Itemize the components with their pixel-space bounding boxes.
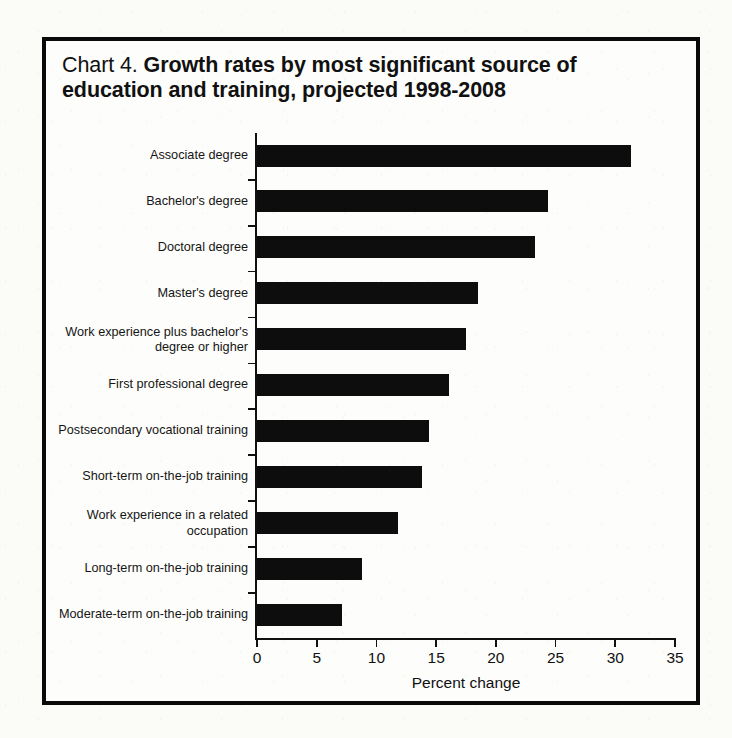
bar bbox=[257, 512, 398, 534]
x-axis-tick-label: 0 bbox=[253, 649, 262, 667]
x-axis-tick bbox=[435, 638, 437, 647]
y-axis-category-label: Postsecondary vocational training bbox=[18, 424, 248, 440]
y-axis-tick bbox=[248, 225, 257, 227]
y-axis-category-label: First professional degree bbox=[18, 378, 248, 394]
x-axis-tick-label: 20 bbox=[487, 649, 504, 667]
y-axis-category-label: Short-term on-the-job training bbox=[18, 469, 248, 485]
bar-row: Short-term on-the-job training bbox=[257, 454, 675, 500]
plot-area: Associate degreeBachelor's degreeDoctora… bbox=[257, 133, 675, 638]
y-axis-category-label: Doctoral degree bbox=[18, 240, 248, 256]
chart-number-label: Chart 4. bbox=[62, 53, 138, 77]
x-axis-tick-label: 25 bbox=[547, 649, 564, 667]
bar-row: Bachelor's degree bbox=[257, 179, 675, 225]
bar-row: Work experience in a related occupation bbox=[257, 500, 675, 546]
bar-row: Long-term on-the-job training bbox=[257, 546, 675, 592]
y-axis-tick bbox=[248, 408, 257, 410]
bar bbox=[257, 466, 422, 488]
bar bbox=[257, 374, 449, 396]
y-axis-tick bbox=[248, 271, 257, 273]
x-axis-tick bbox=[495, 638, 497, 647]
y-axis-tick bbox=[248, 317, 257, 319]
y-axis-category-label: Master's degree bbox=[18, 286, 248, 302]
x-axis-tick bbox=[316, 638, 318, 647]
x-axis-title: Percent change bbox=[257, 674, 675, 692]
y-axis-category-label: Moderate-term on-the-job training bbox=[18, 607, 248, 623]
y-axis-category-label: Bachelor's degree bbox=[18, 194, 248, 210]
bar bbox=[257, 558, 362, 580]
x-axis-tick bbox=[555, 638, 557, 647]
bar-row: First professional degree bbox=[257, 363, 675, 409]
bar-row: Associate degree bbox=[257, 133, 675, 179]
x-axis-tick-label: 10 bbox=[368, 649, 385, 667]
x-axis-tick bbox=[376, 638, 378, 647]
page-title: Chart 4. Growth rates by most significan… bbox=[62, 53, 682, 103]
chart-title-text: Growth rates by most significant source … bbox=[62, 53, 577, 102]
y-axis-tick bbox=[248, 363, 257, 365]
bar bbox=[257, 420, 429, 442]
bar-row: Work experience plus bachelor's degree o… bbox=[257, 317, 675, 363]
y-axis-tick bbox=[248, 179, 257, 181]
x-axis-line bbox=[255, 638, 675, 640]
x-axis-tick-label: 5 bbox=[312, 649, 321, 667]
y-axis-category-label: Associate degree bbox=[18, 148, 248, 164]
y-axis-tick bbox=[248, 592, 257, 594]
y-axis-tick bbox=[248, 454, 257, 456]
scanned-page: Chart 4. Growth rates by most significan… bbox=[0, 0, 732, 738]
y-axis-tick bbox=[248, 546, 257, 548]
y-axis-tick bbox=[248, 500, 257, 502]
bar bbox=[257, 145, 631, 167]
bar bbox=[257, 328, 466, 350]
bar-row: Master's degree bbox=[257, 271, 675, 317]
bar-row: Postsecondary vocational training bbox=[257, 408, 675, 454]
chart-frame: Chart 4. Growth rates by most significan… bbox=[42, 37, 700, 705]
bar bbox=[257, 190, 548, 212]
bar bbox=[257, 236, 535, 258]
y-axis-category-label: Long-term on-the-job training bbox=[18, 561, 248, 577]
x-axis-tick-label: 30 bbox=[607, 649, 624, 667]
y-axis-category-label: Work experience in a related occupation bbox=[18, 508, 248, 539]
bar-row: Moderate-term on-the-job training bbox=[257, 592, 675, 638]
bar bbox=[257, 282, 478, 304]
x-axis-tick-label: 15 bbox=[428, 649, 445, 667]
x-axis-tick bbox=[614, 638, 616, 647]
bar bbox=[257, 604, 342, 626]
x-axis-tick-label: 35 bbox=[666, 649, 683, 667]
x-axis-tick bbox=[256, 638, 258, 647]
x-axis-tick bbox=[674, 638, 676, 647]
y-axis-category-label: Work experience plus bachelor's degree o… bbox=[18, 324, 248, 355]
bar-row: Doctoral degree bbox=[257, 225, 675, 271]
